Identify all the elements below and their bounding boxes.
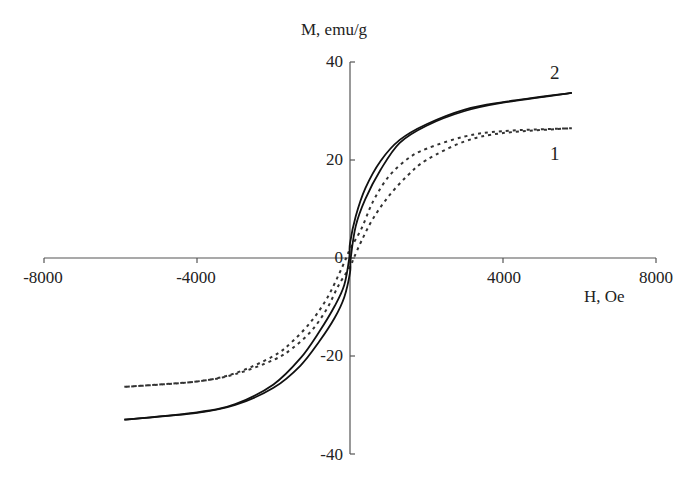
y-tick-label: 20: [326, 150, 343, 170]
y-tick-label: 0: [335, 248, 344, 268]
curve-2-descending-branch: [124, 93, 572, 420]
x-tick-label: -8000: [23, 268, 63, 288]
x-tick-label: -4000: [176, 268, 216, 288]
y-axis-label: M, emu/g: [301, 20, 367, 40]
hysteresis-chart: [0, 0, 690, 478]
curve-label-1: 1: [550, 143, 560, 165]
x-tick-label: 8000: [639, 268, 673, 288]
curves: [124, 93, 572, 420]
y-tick-label: 40: [326, 52, 343, 72]
x-axis-label: H, Oe: [584, 287, 625, 307]
y-tick-label: -20: [320, 346, 343, 366]
curve-label-2: 2: [550, 62, 560, 84]
y-tick-label: -40: [320, 445, 343, 465]
curve-2-ascending-branch: [124, 93, 572, 420]
x-tick-label: 4000: [487, 268, 521, 288]
